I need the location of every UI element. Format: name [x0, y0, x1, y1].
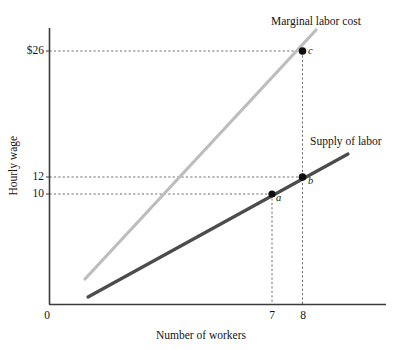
chart-figure: $26 12 10 0 7 8 Hourly wage Number of wo… [0, 0, 393, 350]
y-axis-title: Hourly wage [8, 128, 20, 204]
chart-background [0, 0, 393, 350]
data-point-c [299, 47, 307, 55]
point-label-b: b [308, 176, 313, 187]
chart-canvas [0, 0, 393, 350]
x-tick-label-8: 8 [296, 310, 310, 322]
point-label-c: c [308, 46, 313, 57]
x-tick-label-7: 7 [265, 310, 279, 322]
data-point-b [299, 173, 307, 181]
x-origin-label: 0 [40, 310, 54, 322]
data-point-a [268, 190, 275, 197]
x-axis-title: Number of workers [131, 330, 271, 342]
series-label-supply-of-labor: Supply of labor [310, 136, 382, 148]
series-label-marginal-labor-cost: Marginal labor cost [271, 16, 361, 28]
y-axis-title-wrapper: Hourly wage [0, 130, 26, 210]
point-label-a: a [276, 193, 281, 204]
y-tick-label-26: $26 [12, 45, 44, 57]
